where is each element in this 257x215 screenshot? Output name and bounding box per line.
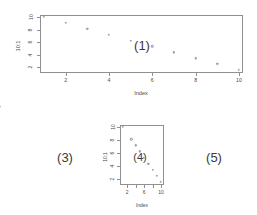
figure-canvas: 10:1 10 8 6 4 2 (1) 2 [0,0,257,215]
top-panel-y-tick-label: 6 [28,41,33,44]
bottom-panel-x-tick [144,185,145,188]
bottom-panel-x-axis-title: Index [136,203,148,208]
top-panel-x-tick-label: 10 [236,78,242,83]
region-label-1: (1) [134,39,150,52]
top-panel-y-tick-label: 2 [28,66,33,69]
bottom-panel-x-tick [161,185,162,188]
bottom-panel-x-tick-label: 6 [143,190,146,195]
top-panel-y-tick-label: 8 [28,28,33,31]
top-panel-y-tick-label: 4 [28,53,33,56]
bottom-panel-y-tick-label: 6 [110,152,115,155]
top-scatter-panel: 10:1 10 8 6 4 2 (1) 2 [0,0,257,107]
bottom-panel-x-tick [153,185,154,188]
region-label-5: (5) [206,151,222,164]
top-panel-y-axis-title: 10:1 [16,41,22,52]
top-panel-y-tick-label: 10 [29,14,34,20]
top-panel-x-tick [239,73,240,76]
bottom-panel-x-tick-label: 2 [126,190,129,195]
bottom-panel-x-tick [127,185,128,188]
bottom-panel-x-tick-label: 10 [158,190,164,195]
bottom-panel-y-tick-label: 4 [110,165,115,168]
bottom-panel-y-axis-title: 10:1 [103,152,108,162]
top-panel-x-tick [196,73,197,76]
top-panel-x-tick [66,73,67,76]
top-panel-x-tick-label: 2 [64,78,67,83]
region-label-4: (4) [133,152,146,163]
bottom-panel-x-tick [136,185,137,188]
top-panel-x-tick-label: 4 [108,78,111,83]
top-panel-x-tick [109,73,110,76]
bottom-panel-y-tick-label: 10 [111,124,116,130]
top-panel-x-tick-label: 6 [151,78,154,83]
bottom-panel-y-tick-label: 2 [110,178,115,181]
top-panel-x-tick [152,73,153,76]
bottom-panel-y-tick-label: 8 [110,139,115,142]
data-point [0,106,1,108]
top-panel-x-axis-title: Index [134,91,148,97]
top-panel-x-tick-label: 8 [194,78,197,83]
